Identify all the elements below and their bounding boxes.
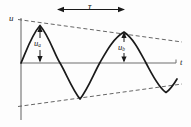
amplitude-label-second: ub (118, 43, 125, 52)
period-label: τ (88, 3, 91, 13)
damped-oscillation-curve (21, 26, 177, 100)
figure-canvas (0, 0, 191, 127)
upper-envelope-line (18, 20, 182, 43)
amplitude-label-first: ua (34, 39, 41, 48)
amplitude-label-first-subscript: a (38, 42, 41, 48)
lower-envelope-line (18, 84, 182, 107)
x-axis-label: t (180, 58, 182, 67)
y-axis-label: u (9, 14, 14, 23)
damped-oscillation-figure: u t τ ua ub (0, 0, 191, 127)
amplitude-label-second-subscript: b (122, 46, 125, 52)
